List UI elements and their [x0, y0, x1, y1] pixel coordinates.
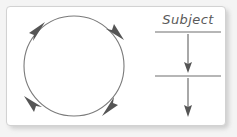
subject-arrow-lower	[184, 78, 192, 117]
cycle-arrowhead-lower-right	[102, 97, 118, 116]
cycle-arrowhead-lower-left	[24, 96, 42, 112]
cycle-arrowhead-upper-left	[29, 22, 45, 41]
subject-heading: Subject	[152, 12, 224, 27]
subject-column	[155, 32, 221, 117]
diagram-canvas: Subject	[0, 0, 237, 137]
circular-cycle	[24, 16, 124, 116]
subject-arrow-upper	[184, 34, 192, 73]
